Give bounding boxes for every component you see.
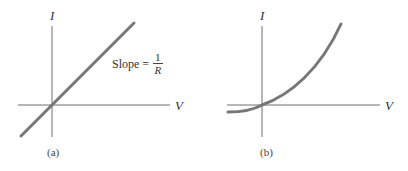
slope-annotation: Slope = 1 R xyxy=(112,52,163,76)
panel-a-x-axis-label: V xyxy=(175,99,183,112)
panel-a-linear-curve xyxy=(21,23,134,136)
slope-fraction: 1 R xyxy=(153,52,163,76)
slope-prefix: Slope = xyxy=(112,57,149,72)
panel-a-caption: (a) xyxy=(47,147,59,158)
slope-numerator: 1 xyxy=(153,52,163,64)
panel-a-y-axis-label: I xyxy=(50,9,54,22)
panel-b-graph xyxy=(227,24,380,137)
panel-a-graph xyxy=(18,23,170,137)
panel-b-caption: (b) xyxy=(260,147,273,158)
panel-b-x-axis-label: V xyxy=(385,99,393,112)
panel-b-y-axis-label: I xyxy=(260,9,264,22)
slope-denominator: R xyxy=(154,64,161,76)
figure-canvas xyxy=(0,0,408,171)
panel-b-nonlinear-curve xyxy=(228,24,341,112)
